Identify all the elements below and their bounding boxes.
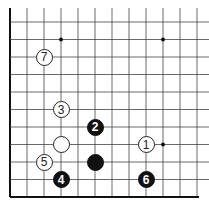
star-point <box>59 38 63 42</box>
move-number: 4 <box>58 174 65 186</box>
star-point <box>161 38 165 42</box>
move-number: 3 <box>58 104 65 116</box>
white-stone <box>53 136 70 153</box>
black-stone-4: 4 <box>53 171 70 188</box>
move-number: 6 <box>143 174 150 186</box>
white-stone-5: 5 <box>36 154 53 171</box>
white-stone-7: 7 <box>36 49 53 66</box>
white-stone-3: 3 <box>53 101 70 118</box>
move-number: 5 <box>41 156 48 168</box>
black-stone-6: 6 <box>138 171 155 188</box>
black-stone-2: 2 <box>87 119 104 136</box>
star-point <box>161 143 165 147</box>
move-number: 2 <box>92 121 99 133</box>
move-number: 1 <box>143 139 150 151</box>
white-stone-1: 1 <box>138 136 155 153</box>
move-number: 7 <box>41 51 48 63</box>
black-stone <box>87 154 104 171</box>
go-board <box>0 0 209 202</box>
